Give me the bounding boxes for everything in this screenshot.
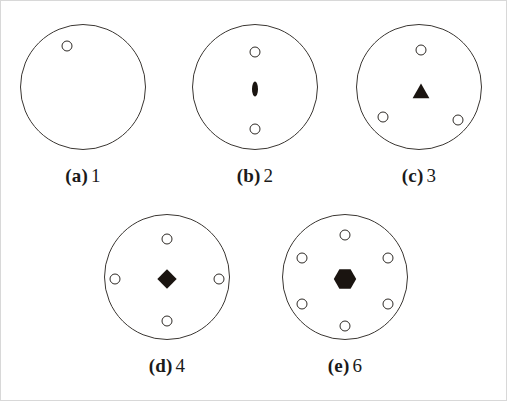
core-marker-triangle-icon bbox=[412, 83, 430, 99]
caption-number: 4 bbox=[176, 355, 186, 376]
figure-panel-grid: (a)1 (b)2 bbox=[0, 0, 507, 401]
site-marker bbox=[214, 274, 225, 285]
caption-a: (a)1 bbox=[5, 165, 161, 187]
core-marker-diamond-icon bbox=[157, 269, 178, 290]
caption-d: (d)4 bbox=[89, 355, 245, 377]
caption-number: 6 bbox=[352, 355, 362, 376]
caption-b: (b)2 bbox=[177, 165, 333, 187]
site-marker bbox=[162, 234, 173, 245]
caption-tag: (b) bbox=[237, 165, 261, 186]
caption-number: 1 bbox=[91, 165, 101, 186]
subfigure-a: (a)1 bbox=[5, 19, 161, 159]
caption-c: (c)3 bbox=[341, 165, 497, 187]
site-marker bbox=[62, 41, 73, 52]
site-marker bbox=[250, 124, 261, 135]
site-marker bbox=[250, 47, 261, 58]
site-marker bbox=[162, 316, 173, 327]
subfigure-b: (b)2 bbox=[177, 19, 333, 159]
caption-tag: (e) bbox=[328, 355, 350, 376]
site-marker bbox=[378, 112, 389, 123]
caption-tag: (d) bbox=[149, 355, 173, 376]
site-marker bbox=[416, 45, 427, 56]
site-marker bbox=[297, 253, 308, 264]
disc-d bbox=[89, 209, 245, 349]
site-marker bbox=[383, 253, 394, 264]
site-marker bbox=[453, 115, 464, 126]
disc-e bbox=[267, 209, 423, 349]
core-marker-hexagon-icon bbox=[333, 268, 357, 290]
caption-number: 2 bbox=[264, 165, 274, 186]
site-marker bbox=[340, 230, 351, 241]
disc-outline-a bbox=[20, 24, 146, 150]
caption-number: 3 bbox=[426, 165, 436, 186]
disc-c bbox=[341, 19, 497, 159]
subfigure-c: (c)3 bbox=[341, 19, 497, 159]
caption-e: (e)6 bbox=[267, 355, 423, 377]
site-marker bbox=[297, 299, 308, 310]
disc-a bbox=[5, 19, 161, 159]
disc-b bbox=[177, 19, 333, 159]
subfigure-d: (d)4 bbox=[89, 209, 245, 349]
site-marker bbox=[383, 299, 394, 310]
site-marker bbox=[340, 321, 351, 332]
caption-tag: (a) bbox=[65, 165, 88, 186]
caption-tag: (c) bbox=[402, 165, 424, 186]
core-marker-vertical-ellipse-icon bbox=[251, 81, 259, 98]
subfigure-e: (e)6 bbox=[267, 209, 423, 349]
site-marker bbox=[110, 274, 121, 285]
